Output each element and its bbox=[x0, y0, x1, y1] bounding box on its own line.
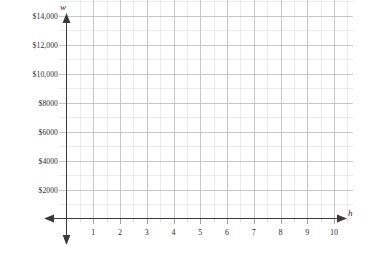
x-axis-variable-label: h bbox=[348, 208, 353, 218]
x-tick-label: 9 bbox=[305, 228, 309, 237]
x-tick-label: 8 bbox=[279, 228, 283, 237]
x-tick-label: 1 bbox=[91, 228, 95, 237]
y-axis-up-arrow bbox=[63, 13, 71, 23]
x-tick-label: 4 bbox=[172, 228, 176, 237]
axis-arrowheads bbox=[44, 13, 347, 245]
y-tick-label: $12,000 bbox=[33, 40, 58, 49]
y-tick-label: $2000 bbox=[39, 185, 58, 194]
graph-figure: $2000$4000$6000$8000$10,000$12,000$14,00… bbox=[0, 0, 366, 253]
x-tick-label: 7 bbox=[252, 228, 256, 237]
x-tick-label: 2 bbox=[118, 228, 122, 237]
major-gridlines bbox=[59, 0, 353, 219]
x-tick-label: 5 bbox=[198, 228, 202, 237]
x-tick-label: 6 bbox=[225, 228, 229, 237]
x-tick-label: 10 bbox=[330, 228, 338, 237]
x-axis-tick-marks bbox=[81, 219, 348, 225]
y-tick-label: $10,000 bbox=[33, 69, 58, 78]
y-tick-label: $4000 bbox=[39, 156, 58, 165]
x-axis-right-arrow bbox=[337, 215, 347, 223]
minor-gridlines bbox=[59, 0, 353, 219]
y-axis-down-arrow bbox=[63, 235, 71, 245]
axis-lines bbox=[48, 20, 340, 238]
x-tick-label: 3 bbox=[145, 228, 149, 237]
y-tick-label: $6000 bbox=[39, 127, 58, 136]
x-axis-left-arrow bbox=[44, 215, 54, 223]
y-tick-label: $14,000 bbox=[33, 11, 58, 20]
y-axis-variable-label: w bbox=[60, 2, 66, 12]
y-tick-label: $8000 bbox=[39, 98, 58, 107]
